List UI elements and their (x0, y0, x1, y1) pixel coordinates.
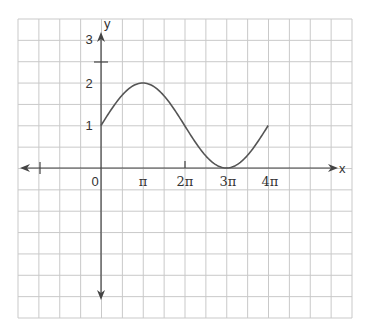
y-tick-3: 3 (85, 32, 92, 47)
y-axis-label: y (104, 16, 111, 31)
y-tick-1: 1 (85, 118, 92, 133)
y-axis (94, 32, 108, 300)
x-axis-label: x (339, 161, 346, 176)
x-axis (20, 161, 338, 174)
x-tick-4pi: 4π (262, 174, 279, 189)
x-tick-3pi: 3π (220, 174, 237, 189)
x-tick-0: 0 (91, 174, 98, 189)
graph: y x 3 2 1 0 π 2π 3π 4π (0, 0, 368, 336)
y-tick-2: 2 (85, 76, 92, 91)
x-tick-2pi: 2π (177, 174, 194, 189)
x-tick-pi: π (139, 174, 148, 189)
